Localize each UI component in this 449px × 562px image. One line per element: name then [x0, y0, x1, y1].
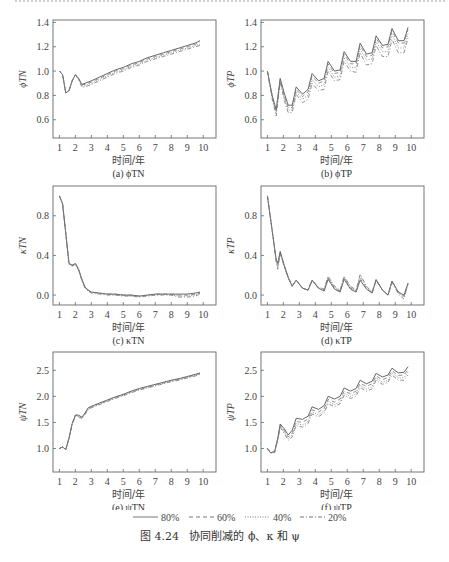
series-20pct	[59, 374, 200, 449]
x-tick-label: 9	[185, 476, 190, 487]
y-tick-label: 1.0	[37, 443, 50, 454]
y-tick-label: 0.0	[37, 290, 50, 301]
x-tick-label: 2	[73, 309, 78, 320]
y-tick-label: 1.5	[245, 417, 258, 428]
x-tick-label: 5	[121, 476, 126, 487]
y-axis-label: ψTN	[17, 401, 28, 421]
series-60pct	[267, 196, 408, 296]
y-tick-label: 1.4	[37, 17, 50, 28]
figure-panels: 123456789100.60.81.01.21.4ϕTN时间/年(a) ϕTN…	[0, 0, 449, 510]
y-tick-label: 1.0	[245, 66, 258, 77]
series-20pct	[267, 375, 408, 453]
series-60pct	[59, 373, 200, 449]
panel-caption: (e) ψTN	[112, 502, 145, 510]
y-axis-label: κTP	[225, 237, 236, 253]
x-tick-label: 9	[393, 309, 398, 320]
legend: 80% 60% 40% 20%	[0, 510, 449, 524]
y-tick-label: 0.8	[37, 210, 50, 221]
y-tick-label: 1.2	[245, 41, 258, 52]
panel-c: 123456789100.00.40.8κTN时间/年(c) κTN	[17, 186, 216, 347]
x-tick-label: 4	[313, 309, 318, 320]
x-tick-label: 4	[105, 142, 110, 153]
x-tick-label: 7	[153, 476, 158, 487]
x-tick-label: 6	[137, 309, 142, 320]
x-tick-label: 4	[105, 476, 110, 487]
x-tick-label: 1	[265, 309, 270, 320]
x-tick-label: 1	[265, 142, 270, 153]
y-tick-label: 2.5	[37, 365, 50, 376]
x-tick-label: 2	[73, 476, 78, 487]
series-40pct	[267, 33, 408, 113]
legend-item-40: 40%	[245, 512, 291, 523]
x-tick-label: 8	[169, 309, 174, 320]
x-tick-label: 8	[169, 476, 174, 487]
x-tick-label: 10	[406, 309, 416, 320]
x-tick-label: 2	[281, 142, 286, 153]
x-tick-label: 5	[121, 142, 126, 153]
series-40pct	[59, 374, 200, 450]
y-axis-label: ψTP	[225, 403, 236, 421]
series-80pct	[267, 27, 408, 110]
x-tick-label: 3	[89, 476, 94, 487]
legend-item-20: 20%	[300, 512, 346, 523]
series-80pct	[267, 196, 408, 295]
panel-caption: (f) ψTP	[321, 502, 352, 510]
x-axis-label: 时间/年	[112, 154, 145, 166]
y-tick-label: 0.4	[37, 250, 50, 261]
x-tick-label: 10	[406, 476, 416, 487]
y-tick-label: 0.8	[37, 90, 50, 101]
x-tick-label: 8	[377, 309, 382, 320]
y-tick-label: 1.2	[37, 41, 50, 52]
panel-f: 123456789101.01.52.02.5ψTP时间/年(f) ψTP	[225, 352, 424, 510]
x-tick-label: 10	[198, 309, 208, 320]
x-tick-label: 5	[329, 142, 334, 153]
y-tick-label: 1.0	[37, 66, 50, 77]
x-tick-label: 1	[57, 309, 62, 320]
series-40pct	[267, 372, 408, 452]
plot-frame	[261, 20, 424, 138]
x-tick-label: 3	[297, 309, 302, 320]
x-tick-label: 2	[73, 142, 78, 153]
x-tick-label: 6	[345, 142, 350, 153]
series-40pct	[59, 196, 200, 296]
x-axis-label: 时间/年	[320, 321, 353, 333]
y-axis-label: κTN	[17, 236, 28, 254]
x-tick-label: 9	[393, 142, 398, 153]
x-tick-label: 3	[297, 142, 302, 153]
plot-frame	[53, 186, 216, 305]
x-tick-label: 7	[153, 309, 158, 320]
x-tick-label: 4	[313, 142, 318, 153]
y-tick-label: 0.0	[245, 290, 258, 301]
y-tick-label: 0.4	[245, 250, 258, 261]
y-tick-label: 0.8	[245, 90, 258, 101]
x-tick-label: 6	[345, 309, 350, 320]
y-axis-label: ϕTP	[225, 71, 236, 88]
x-axis-label: 时间/年	[112, 488, 145, 500]
x-tick-label: 10	[406, 142, 416, 153]
y-tick-label: 0.6	[37, 114, 50, 125]
plot-frame	[53, 20, 216, 138]
panel-b: 123456789100.60.81.01.21.4ϕTP时间/年(b) ϕTP	[225, 17, 424, 180]
plot-frame	[261, 186, 424, 305]
plot-frame	[261, 352, 424, 472]
legend-label: 40%	[273, 512, 291, 523]
x-tick-label: 7	[361, 476, 366, 487]
y-tick-label: 1.0	[245, 443, 258, 454]
x-tick-label: 7	[361, 142, 366, 153]
x-axis-label: 时间/年	[320, 154, 353, 166]
x-tick-label: 1	[265, 476, 270, 487]
x-tick-label: 6	[137, 142, 142, 153]
legend-label: 20%	[328, 512, 346, 523]
x-tick-label: 1	[57, 142, 62, 153]
y-axis-label: ϕTN	[17, 69, 28, 88]
plot-frame	[53, 352, 216, 472]
x-tick-label: 5	[121, 309, 126, 320]
series-80pct	[59, 41, 200, 93]
x-tick-label: 1	[57, 476, 62, 487]
series-20pct	[267, 196, 408, 299]
x-tick-label: 6	[137, 476, 142, 487]
series-20pct	[59, 46, 200, 94]
panel-caption: (a) ϕTN	[112, 168, 144, 180]
x-tick-label: 4	[313, 476, 318, 487]
x-tick-label: 2	[281, 309, 286, 320]
